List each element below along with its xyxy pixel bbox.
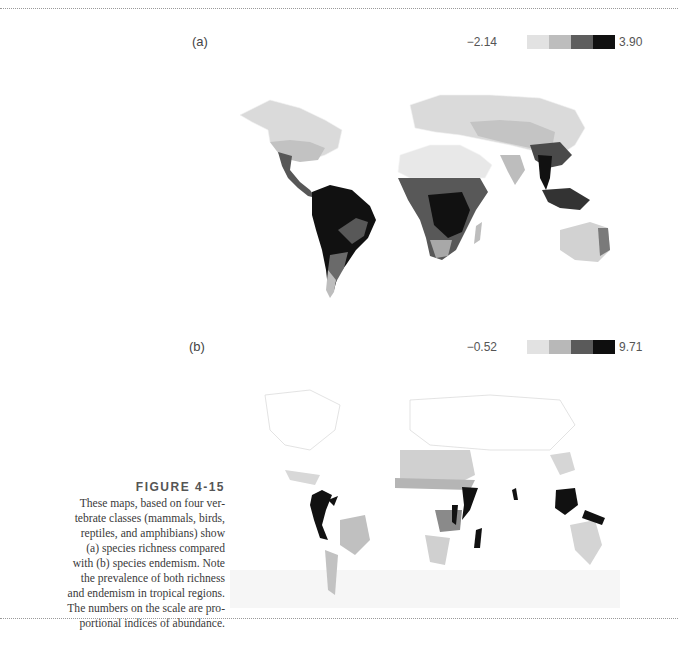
panel-b-scale: −0.52 9.71 — [457, 339, 642, 355]
swatch-2 — [549, 35, 571, 49]
swatch-1 — [527, 340, 549, 354]
scale-min: −2.14 — [457, 35, 497, 49]
panel-a-scale: −2.14 3.90 — [457, 34, 642, 50]
figure-number: FIGURE 4-15 — [20, 480, 225, 495]
endemism-world-map — [230, 370, 678, 620]
caption-line: with (b) species endemism. Note — [20, 556, 225, 571]
caption-line: These maps, based on four ver- — [20, 496, 225, 511]
panel-b-label: (b) — [189, 339, 205, 354]
caption-line: tebrate classes (mammals, birds, — [20, 511, 225, 526]
richness-world-map — [230, 60, 678, 310]
scale-max: 3.90 — [619, 35, 642, 49]
scale-max: 9.71 — [619, 340, 642, 354]
caption-line: The numbers on the scale are pro- — [20, 601, 225, 616]
scale-swatches — [527, 340, 615, 354]
swatch-1 — [527, 35, 549, 49]
figure-caption: FIGURE 4-15 These maps, based on four ve… — [20, 480, 225, 631]
caption-line: the prevalence of both richness — [20, 571, 225, 586]
swatch-2 — [549, 340, 571, 354]
swatch-3 — [571, 35, 593, 49]
bottom-dotted-rule — [0, 618, 678, 619]
caption-line: reptiles, and amphibians) show — [20, 526, 225, 541]
swatch-4 — [593, 340, 615, 354]
caption-line: (a) species richness compared — [20, 541, 225, 556]
swatch-3 — [571, 340, 593, 354]
panel-a-label: (a) — [192, 34, 208, 49]
top-dotted-rule — [0, 8, 678, 9]
caption-line: and endemism in tropical regions. — [20, 586, 225, 601]
scale-min: −0.52 — [457, 340, 497, 354]
scale-swatches — [527, 35, 615, 49]
swatch-4 — [593, 35, 615, 49]
